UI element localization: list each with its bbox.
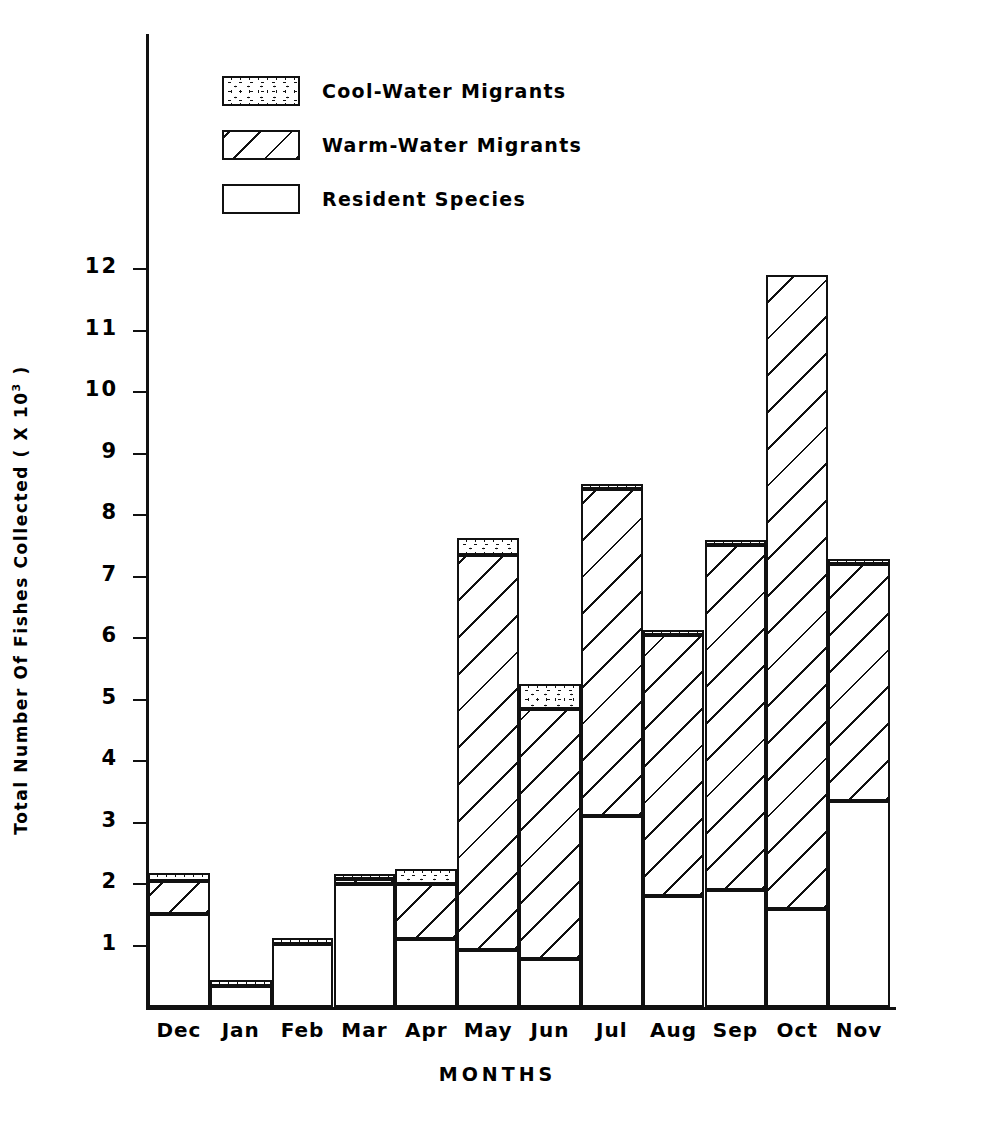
y-tick-label: 11 xyxy=(76,316,118,340)
y-tick-mark xyxy=(133,268,146,270)
y-tick-mark xyxy=(133,514,146,516)
legend-swatch-resident-icon xyxy=(222,184,300,214)
bar-segment-warm xyxy=(705,545,767,891)
y-tick-label: 1 xyxy=(76,931,118,955)
bar-segment-warm xyxy=(395,884,457,939)
y-axis-title-container: Total Number Of Fishes Collected ( X 103… xyxy=(0,280,40,920)
y-tick-label: 5 xyxy=(76,685,118,709)
bar-segment-cool xyxy=(395,869,457,884)
y-axis-title-text: Total Number Of Fishes Collected ( X 10 xyxy=(10,391,30,834)
bar-dec xyxy=(148,34,210,1007)
bar-segment-warm xyxy=(581,489,643,816)
bar-segment-resident xyxy=(272,944,334,1007)
bar-sep xyxy=(705,34,767,1007)
legend-label-warm-water: Warm-Water Migrants xyxy=(322,134,582,156)
y-tick-label: 7 xyxy=(76,562,118,586)
y-tick-mark xyxy=(133,637,146,639)
bar-segment-cool xyxy=(643,630,705,635)
legend-swatch-cool-icon xyxy=(222,76,300,106)
y-tick-mark xyxy=(133,576,146,578)
y-tick-label: 2 xyxy=(76,869,118,893)
bar-segment-resident xyxy=(705,890,767,1007)
y-axis-title-suffix: ) xyxy=(10,365,30,382)
y-tick-mark xyxy=(133,945,146,947)
bar-segment-resident xyxy=(395,939,457,1007)
y-tick-mark xyxy=(133,760,146,762)
bar-segment-warm xyxy=(148,881,210,914)
bar-segment-resident xyxy=(457,950,519,1007)
bar-segment-resident xyxy=(334,884,396,1007)
bar-segment-resident xyxy=(148,914,210,1007)
bar-aug xyxy=(643,34,705,1007)
y-axis-title: Total Number Of Fishes Collected ( X 103… xyxy=(10,365,31,835)
bar-segment-warm xyxy=(828,564,890,801)
bar-segment-resident xyxy=(766,909,828,1007)
y-tick-label: 8 xyxy=(76,500,118,524)
bar-segment-warm xyxy=(643,635,705,896)
legend-label-cool-water: Cool-Water Migrants xyxy=(322,80,566,102)
y-tick-mark xyxy=(133,330,146,332)
bar-segment-resident xyxy=(828,801,890,1007)
chart-legend: Cool-Water Migrants Warm-Water Migrants … xyxy=(222,64,642,226)
y-tick-label: 12 xyxy=(76,254,118,278)
bar-oct xyxy=(766,34,828,1007)
legend-item-resident: Resident Species xyxy=(222,172,642,226)
bar-segment-warm xyxy=(457,555,519,950)
bar-segment-warm xyxy=(766,275,828,908)
y-tick-mark xyxy=(133,883,146,885)
bar-segment-resident xyxy=(581,816,643,1007)
bar-segment-cool xyxy=(457,538,519,555)
bar-segment-cool xyxy=(148,873,210,881)
bar-segment-resident xyxy=(643,896,705,1007)
bar-nov xyxy=(828,34,890,1007)
y-tick-label: 10 xyxy=(76,377,118,401)
y-tick-label: 9 xyxy=(76,439,118,463)
y-tick-label: 4 xyxy=(76,746,118,770)
bar-segment-resident xyxy=(519,959,581,1007)
y-tick-label: 3 xyxy=(76,808,118,832)
bar-segment-warm xyxy=(334,879,396,884)
y-tick-label: 6 xyxy=(76,623,118,647)
bar-segment-resident xyxy=(210,986,272,1007)
legend-label-resident: Resident Species xyxy=(322,188,526,210)
y-tick-mark xyxy=(133,699,146,701)
bar-segment-cool xyxy=(272,938,334,944)
y-tick-mark xyxy=(133,391,146,393)
x-axis-line xyxy=(146,1007,896,1010)
x-tick-label-nov: Nov xyxy=(820,1018,898,1042)
bar-segment-warm xyxy=(519,709,581,959)
legend-item-warm-water: Warm-Water Migrants xyxy=(222,118,642,172)
bar-segment-cool xyxy=(210,980,272,986)
bar-segment-cool xyxy=(828,559,890,564)
x-axis-title: MONTHS xyxy=(0,1063,995,1085)
legend-swatch-warm-icon xyxy=(222,130,300,160)
y-tick-mark xyxy=(133,822,146,824)
chart-figure: Total Number Of Fishes Collected ( X 103… xyxy=(0,0,995,1134)
bar-segment-cool xyxy=(519,684,581,709)
bar-segment-cool xyxy=(334,874,396,879)
bar-segment-cool xyxy=(581,484,643,489)
bar-segment-cool xyxy=(705,540,767,545)
legend-item-cool-water: Cool-Water Migrants xyxy=(222,64,642,118)
y-tick-mark xyxy=(133,453,146,455)
y-axis-title-exponent: 3 xyxy=(10,382,23,391)
